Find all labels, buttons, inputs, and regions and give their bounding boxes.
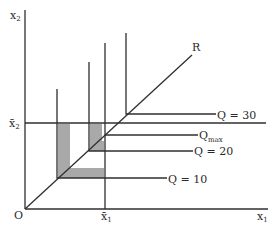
x2-bar-label: x̄2 <box>9 117 20 131</box>
isoquant-qmax-label: Qmax <box>199 129 223 144</box>
isoquant-diagram: x2 x1 O R x̄2 x̄1 Q = 10 Q = 20 Q = 30 Q… <box>0 0 278 229</box>
origin-label: O <box>14 209 23 222</box>
x1-bar-label: x̄1 <box>101 210 112 224</box>
isoquant-q20-label: Q = 20 <box>194 145 233 158</box>
isoquant-q10-label: Q = 10 <box>168 173 207 186</box>
x-axis-label: x1 <box>257 210 268 224</box>
expansion-ray <box>25 55 192 209</box>
isoquant-q30-label: Q = 30 <box>217 109 256 122</box>
ray-label: R <box>192 41 201 54</box>
y-axis-label: x2 <box>10 9 21 23</box>
